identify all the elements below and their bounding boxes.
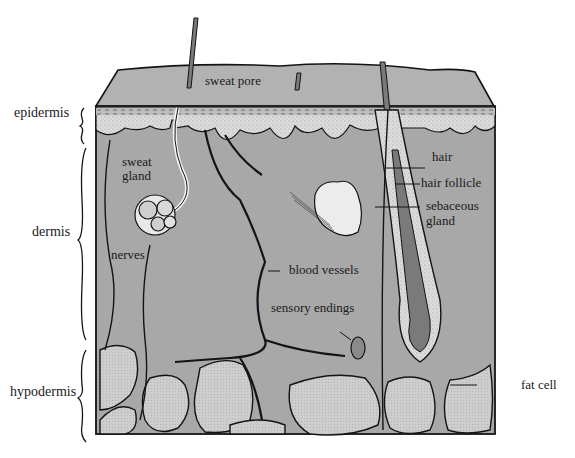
label-hair-follicle: hair follicle [421,176,481,189]
label-sensory-endings: sensory endings [271,301,354,314]
label-sebaceous-gland-2: gland [426,214,455,227]
epidermis-top-strip [96,108,495,115]
label-nerves: nerves [111,248,145,261]
label-sebaceous-gland-1: sebaceous [426,199,479,212]
label-sweat-gland-1: sweat [122,155,152,168]
skin-cross-section [0,0,575,458]
label-sweat-pore: sweat pore [205,74,261,87]
label-dermis: dermis [32,225,70,239]
sweat-gland [135,195,176,235]
label-hair: hair [432,150,452,163]
label-hypodermis: hypodermis [10,385,76,399]
label-sweat-gland-2: gland [122,169,151,182]
sensory-ending [351,337,365,359]
label-fat-cell: fat cell [521,378,557,391]
layer-braces [78,108,86,442]
label-blood-vessels: blood vessels [289,263,359,276]
label-epidermis: epidermis [14,106,69,120]
